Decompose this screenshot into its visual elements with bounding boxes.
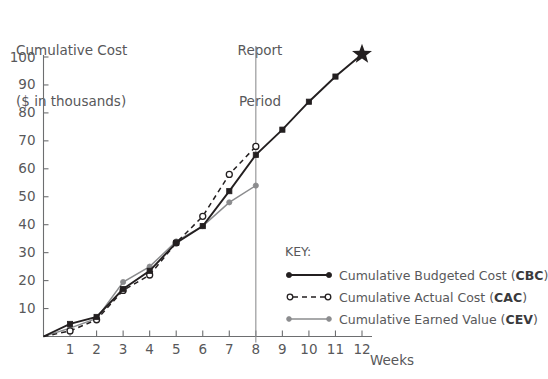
y-tick-label: 10 [18, 300, 35, 316]
legend-swatch-cac [285, 290, 333, 304]
data-point-cbc [306, 99, 311, 104]
data-point-cac [67, 328, 73, 334]
y-tick-label: 70 [18, 132, 35, 148]
series-line-cev [44, 186, 256, 337]
data-point-cev [121, 279, 126, 284]
x-tick-label: 10 [300, 341, 317, 357]
legend-swatch-cbc [285, 268, 333, 282]
legend: KEY: Cumulative Budgeted Cost (CBC) Cumu… [285, 244, 505, 330]
y-tick-label: 40 [18, 216, 35, 232]
x-tick-label: 7 [225, 341, 234, 357]
data-point-cev [227, 200, 232, 205]
x-axis-ticks: 123456789101112 [66, 331, 371, 357]
data-point-cac [200, 213, 206, 219]
y-tick-label: 20 [18, 272, 35, 288]
legend-label-cev: Cumulative Earned Value (CEV) [339, 312, 538, 327]
y-tick-label: 80 [18, 104, 35, 120]
data-point-cbc [94, 314, 99, 319]
data-point-cac [253, 143, 259, 149]
data-point-cbc [253, 152, 258, 157]
legend-title: KEY: [285, 244, 505, 259]
series-line-cac [44, 146, 256, 336]
legend-item-cbc[interactable]: Cumulative Budgeted Cost (CBC) [285, 264, 505, 286]
data-point-cac [226, 171, 232, 177]
data-point-cbc [174, 240, 179, 245]
y-tick-label: 100 [10, 49, 36, 65]
y-tick-label: 30 [18, 244, 35, 260]
legend-item-cev[interactable]: Cumulative Earned Value (CEV) [285, 308, 505, 330]
y-axis-ticks: 102030405060708090100 [10, 49, 49, 317]
y-tick-label: 90 [18, 76, 35, 92]
y-tick-label: 60 [18, 160, 35, 176]
x-tick-label: 1 [66, 341, 75, 357]
data-point-cbc [121, 286, 126, 291]
x-tick-label: 8 [252, 341, 261, 357]
x-tick-label: 6 [198, 341, 207, 357]
x-tick-label: 3 [119, 341, 128, 357]
data-point-cbc [67, 321, 72, 326]
legend-label-cbc: Cumulative Budgeted Cost (CBC) [339, 268, 548, 283]
y-tick-label: 50 [18, 188, 35, 204]
data-point-cbc [333, 74, 338, 79]
x-tick-label: 11 [327, 341, 344, 357]
data-point-cbc [200, 223, 205, 228]
x-tick-label: 12 [353, 341, 370, 357]
data-point-cbc [147, 268, 152, 273]
legend-swatch-cev [285, 312, 333, 326]
x-tick-label: 2 [92, 341, 101, 357]
data-point-cev [253, 183, 258, 188]
data-point-cbc [280, 127, 285, 132]
legend-item-cac[interactable]: Cumulative Actual Cost (CAC) [285, 286, 505, 308]
x-tick-label: 5 [172, 341, 181, 357]
legend-label-cac: Cumulative Actual Cost (CAC) [339, 290, 527, 305]
data-point-cbc [227, 189, 232, 194]
x-tick-label: 9 [278, 341, 287, 357]
x-tick-label: 4 [145, 341, 154, 357]
